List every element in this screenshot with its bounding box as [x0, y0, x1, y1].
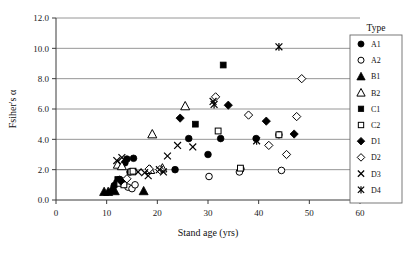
legend-label-A2: A2: [371, 56, 381, 65]
data-point-A1: [217, 135, 224, 142]
data-point-A1: [130, 155, 137, 162]
legend-label-B2: B2: [371, 89, 380, 98]
legend-label-C1: C1: [371, 105, 380, 114]
data-point-C2: [276, 132, 282, 138]
legend-marker-A2: [358, 57, 364, 63]
x-tick-label-30: 30: [204, 208, 214, 218]
y-tick-label-0.0: 0.0: [38, 195, 50, 205]
legend-marker-C2: [358, 122, 363, 127]
y-tick-label-12.0: 12.0: [33, 13, 49, 23]
data-point-A2: [206, 173, 213, 180]
data-point-C2: [215, 128, 221, 134]
y-axis-title: Fsiher's α: [7, 89, 18, 128]
x-tick-label-20: 20: [153, 208, 163, 218]
legend-label-C2: C2: [371, 121, 380, 130]
legend-marker-A1: [358, 41, 364, 47]
y-tick-label-6.0: 6.0: [38, 104, 50, 114]
y-tick-label-2.0: 2.0: [38, 165, 50, 175]
x-tick-label-50: 50: [305, 208, 315, 218]
data-point-A1: [124, 156, 131, 163]
data-point-A2: [132, 182, 139, 189]
x-tick-label-60: 60: [356, 208, 366, 218]
y-tick-label-4.0: 4.0: [38, 135, 50, 145]
legend-title: Type: [367, 23, 386, 33]
x-tick-label-0: 0: [54, 208, 59, 218]
legend-label-D1: D1: [371, 137, 381, 146]
scatter-chart: 0.02.04.06.08.010.012.00102030405060Stan…: [0, 0, 418, 263]
data-point-C2: [238, 165, 244, 171]
legend-label-A1: A1: [371, 40, 381, 49]
data-point-A2: [278, 167, 285, 174]
y-tick-label-8.0: 8.0: [38, 74, 50, 84]
chart-canvas: 0.02.04.06.08.010.012.00102030405060Stan…: [0, 0, 418, 263]
data-point-A1: [185, 135, 192, 142]
legend-label-D3: D3: [371, 170, 381, 179]
legend-marker-C1: [358, 106, 363, 111]
legend-label-B1: B1: [371, 72, 380, 81]
data-point-C1: [192, 121, 198, 127]
legend-label-D2: D2: [371, 153, 381, 162]
data-point-A1: [205, 151, 212, 158]
x-tick-label-10: 10: [102, 208, 112, 218]
x-axis-title: Stand age (yrs): [178, 227, 239, 239]
legend-label-D4: D4: [371, 186, 381, 195]
data-point-A1: [172, 166, 179, 173]
y-tick-label-10.0: 10.0: [33, 44, 49, 54]
data-point-C1: [220, 62, 226, 68]
x-tick-label-40: 40: [254, 208, 264, 218]
